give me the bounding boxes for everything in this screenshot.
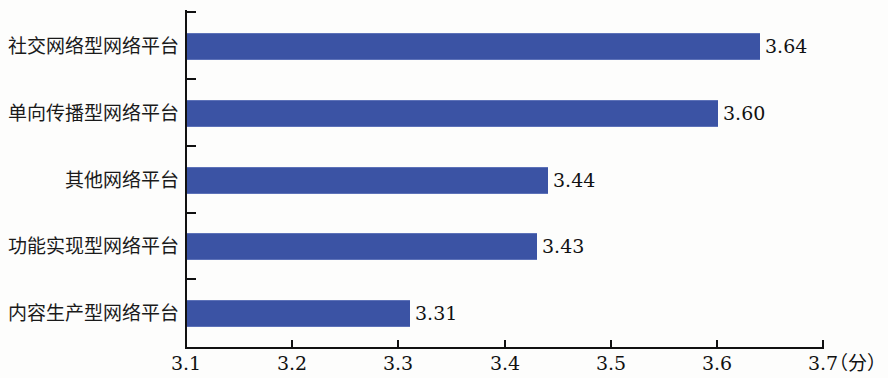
bar-0[interactable] [187,33,760,60]
bar-value-1: 3.60 [723,102,765,124]
value-axis-unit-label: （分） [829,352,886,374]
value-axis-tick-2 [397,340,399,348]
value-axis-tick-1 [291,340,293,348]
bar-value-2: 3.44 [553,169,595,191]
value-axis-label-1: 3.2 [277,352,307,374]
category-label-2: 其他网络平台 [0,169,179,191]
bar-4[interactable] [187,300,410,327]
category-axis-tick-4 [187,278,196,280]
value-axis-label-4: 3.5 [596,352,626,374]
value-axis-label-3: 3.4 [490,352,520,374]
bar-3[interactable] [187,233,537,260]
value-axis-label-0: 3.1 [171,352,201,374]
bar-1[interactable] [187,100,718,127]
bar-value-3: 3.43 [542,235,584,257]
value-axis-label-2: 3.3 [383,352,413,374]
category-label-3: 功能实现型网络平台 [0,235,179,257]
value-axis-tick-0 [185,340,187,348]
category-label-4: 内容生产型网络平台 [0,302,179,324]
value-axis-tick-5 [716,340,718,348]
category-axis-tick-top [187,11,196,13]
category-axis-tick-2 [187,145,196,147]
category-label-0: 社交网络型网络平台 [0,35,179,57]
horizontal-bar-chart: 社交网络型网络平台 单向传播型网络平台 其他网络平台 功能实现型网络平台 内容生… [0,0,888,378]
value-axis-tick-3 [504,340,506,348]
category-label-1: 单向传播型网络平台 [0,102,179,124]
value-axis-label-5: 3.6 [702,352,732,374]
value-axis-tick-6 [822,340,824,348]
category-axis-tick-3 [187,212,196,214]
value-axis-tick-4 [610,340,612,348]
bar-value-0: 3.64 [765,35,807,57]
bar-2[interactable] [187,167,548,194]
category-axis-tick-1 [187,78,196,80]
bar-value-4: 3.31 [415,302,457,324]
